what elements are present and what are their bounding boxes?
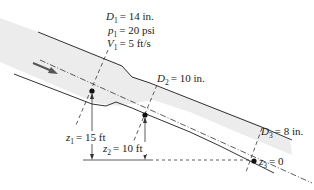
label-d2: D2= 10 in. xyxy=(156,72,205,87)
label-v1: V1= 5 ft/s xyxy=(107,37,151,52)
pipe-diagram: D1= 14 in. p1= 20 psi V1= 5 ft/s z1= 15 … xyxy=(0,0,314,190)
point-1 xyxy=(89,88,94,93)
label-z3: z3= 0 xyxy=(258,155,284,170)
point-3 xyxy=(251,158,256,163)
z1-arrow-down xyxy=(90,154,94,160)
point-2 xyxy=(142,112,147,117)
label-d1: D1= 14 in. xyxy=(105,10,154,25)
